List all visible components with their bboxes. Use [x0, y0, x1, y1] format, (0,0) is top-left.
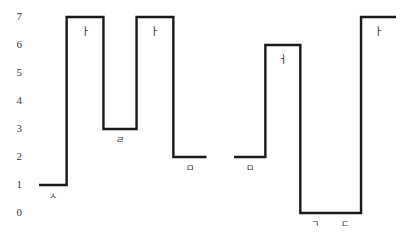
segment-label-ㄹ: ㄹ — [109, 136, 131, 145]
segment-label-ㅅ: ㅅ — [42, 192, 64, 201]
segment-label-ㅏ: ㅏ — [144, 27, 166, 37]
y-tick-label-7: 7 — [6, 11, 22, 22]
segment-label-ㅓ: ㅓ — [272, 55, 294, 65]
y-tick-label-5: 5 — [6, 67, 22, 78]
segment-label-ㄷ: ㄷ — [334, 220, 356, 229]
segment-label-ㅁ: ㅁ — [239, 164, 261, 173]
step-line-group-1 — [39, 17, 206, 185]
y-tick-label-0: 0 — [6, 207, 22, 218]
segment-label-ㄱ: ㄱ — [304, 220, 326, 229]
y-tick-label-1: 1 — [6, 179, 22, 190]
y-tick-label-3: 3 — [6, 123, 22, 134]
chart-container: 76543210 ㅅㅏㄹㅏㅁㅁㅓㄱㄷㅏ — [0, 0, 400, 242]
segment-label-ㅏ: ㅏ — [368, 27, 390, 37]
y-tick-label-2: 2 — [6, 151, 22, 162]
y-tick-label-6: 6 — [6, 39, 22, 50]
segment-label-ㅁ: ㅁ — [179, 164, 201, 173]
segment-label-ㅏ: ㅏ — [74, 27, 96, 37]
step-line-group-2 — [234, 17, 396, 213]
step-contour-plot — [0, 0, 400, 242]
y-tick-label-4: 4 — [6, 95, 22, 106]
